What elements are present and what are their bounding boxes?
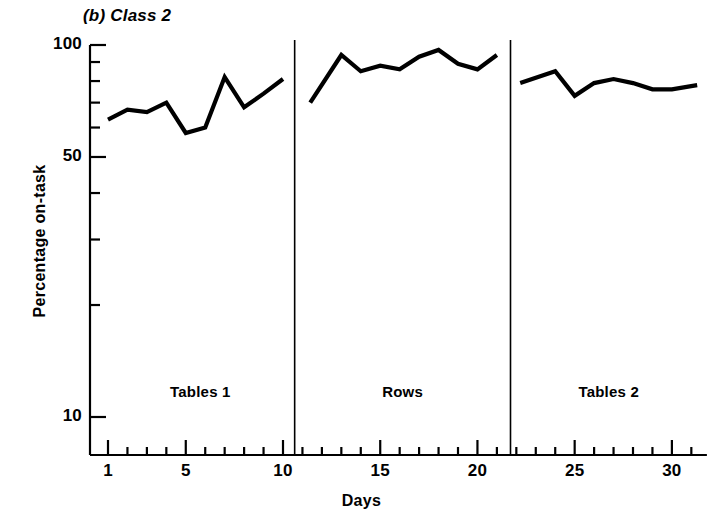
phase-label-tables-1: Tables 1 [100, 383, 300, 400]
y-tick-label: 50 [22, 146, 82, 166]
x-tick-label: 30 [642, 461, 702, 481]
phase-label-rows: Rows [303, 383, 503, 400]
phase-label-tables-2: Tables 2 [509, 383, 709, 400]
plot-area [0, 0, 723, 527]
y-tick-label: 10 [22, 406, 82, 426]
data-line-rows [310, 50, 497, 103]
y-tick-label: 100 [22, 34, 82, 54]
figure-class-2: (b) Class 2 Percentage on-task Days 1005… [0, 0, 723, 527]
x-tick-label: 20 [447, 461, 507, 481]
x-tick-label: 1 [78, 461, 138, 481]
data-line-tables-2 [520, 71, 697, 96]
x-tick-label: 5 [156, 461, 216, 481]
x-tick-label: 25 [545, 461, 605, 481]
x-tick-label: 10 [253, 461, 313, 481]
data-lines-group [108, 50, 697, 133]
data-line-tables-1 [108, 77, 283, 133]
x-tick-label: 15 [350, 461, 410, 481]
